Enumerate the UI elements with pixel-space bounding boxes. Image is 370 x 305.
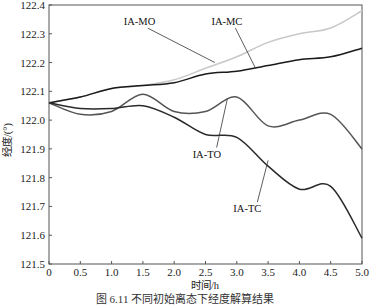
x-axis-title: 时间/h <box>191 279 220 291</box>
x-tick-label: 2.5 <box>199 266 213 278</box>
series-label-ia-to: IA-TO <box>193 149 222 160</box>
y-tick-label: 121.7 <box>20 200 45 212</box>
y-axis-ticks: 121.5121.6121.7121.8121.9122.0122.1122.2… <box>20 0 52 270</box>
series-label-ia-mc: IA-MC <box>211 16 242 27</box>
x-tick-label: 1.0 <box>105 266 119 278</box>
x-tick-label: 4.5 <box>324 266 338 278</box>
annotation-leader-line <box>217 99 228 148</box>
annotation-leader-line <box>235 28 255 68</box>
series-lines <box>49 11 362 238</box>
figure-caption: 图 6.11 不同初始离态下经度解算结果 <box>0 293 370 305</box>
series-line-ia-tc <box>49 103 362 238</box>
x-tick-label: 0.5 <box>73 266 87 278</box>
series-label-ia-tc: IA-TC <box>233 203 261 214</box>
x-tick-label: 3.5 <box>261 266 275 278</box>
x-tick-label: 3.0 <box>230 266 244 278</box>
y-tick-label: 122.0 <box>20 114 45 126</box>
series-line-ia-to <box>49 94 362 149</box>
x-tick-label: 2.0 <box>167 266 181 278</box>
y-tick-label: 122.4 <box>20 0 45 11</box>
annotation-leader-line <box>148 28 215 62</box>
y-tick-label: 122.1 <box>20 85 45 97</box>
series-label-ia-mo: IA-MO <box>124 16 156 27</box>
y-axis-title: 经度/(°) <box>1 122 14 157</box>
y-tick-label: 121.5 <box>20 258 45 270</box>
x-tick-label: 5.0 <box>355 266 369 278</box>
y-tick-label: 122.3 <box>20 28 45 40</box>
series-line-ia-mo <box>49 11 362 103</box>
series-annotations: IA-MOIA-MCIA-TOIA-TC <box>124 16 268 214</box>
y-tick-label: 121.6 <box>20 229 45 241</box>
y-tick-label: 122.2 <box>20 57 45 69</box>
annotation-leader-line <box>257 160 268 202</box>
x-tick-label: 1.5 <box>136 266 150 278</box>
y-tick-label: 121.8 <box>20 172 45 184</box>
x-tick-label: 4.0 <box>293 266 307 278</box>
y-tick-label: 121.9 <box>20 143 45 155</box>
x-tick-label: 0 <box>46 266 52 278</box>
series-line-ia-mc <box>49 48 362 103</box>
